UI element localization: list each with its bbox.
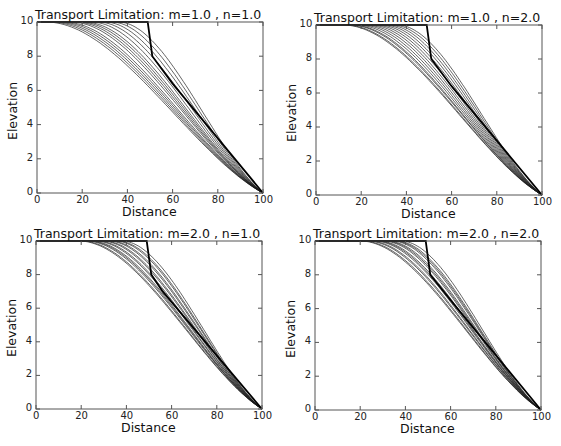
y-tick-label: 8 bbox=[305, 268, 311, 279]
y-axis-label: Elevation bbox=[284, 84, 299, 142]
x-tick-label: 100 bbox=[253, 410, 272, 421]
evolved-profile-line bbox=[36, 241, 262, 409]
y-tick-label: 8 bbox=[26, 268, 32, 279]
initial-profile-line bbox=[316, 25, 542, 195]
y-tick-label: 10 bbox=[20, 234, 33, 245]
plot-area bbox=[37, 22, 263, 193]
y-tick-label: 0 bbox=[305, 403, 311, 414]
y-tick-label: 10 bbox=[21, 15, 34, 26]
evolved-profile-line bbox=[36, 241, 262, 409]
evolved-profile-line bbox=[316, 25, 542, 195]
evolved-profile-line bbox=[316, 25, 542, 195]
x-tick-label: 100 bbox=[532, 411, 551, 422]
x-tick-label: 0 bbox=[34, 194, 40, 205]
evolved-profile-line bbox=[316, 25, 542, 195]
evolved-profile-line bbox=[316, 25, 542, 195]
y-tick-label: 8 bbox=[27, 49, 33, 60]
y-tick-label: 4 bbox=[306, 120, 312, 131]
x-tick-label: 0 bbox=[313, 196, 319, 207]
evolved-profile-line bbox=[36, 241, 262, 409]
evolved-profile-line bbox=[36, 241, 262, 409]
evolved-profile-line bbox=[316, 25, 542, 195]
y-tick-label: 0 bbox=[27, 186, 33, 197]
evolved-profile-line bbox=[36, 241, 262, 409]
chart-title: Transport Limitation: m=2.0 , n=1.0 bbox=[34, 226, 260, 241]
evolved-profile-line bbox=[316, 25, 542, 195]
chart-title: Transport Limitation: m=1.0 , n=1.0 bbox=[35, 7, 261, 22]
x-tick-label: 20 bbox=[76, 194, 89, 205]
y-tick-label: 6 bbox=[27, 83, 33, 94]
evolved-profile-line bbox=[315, 241, 541, 410]
evolved-profile-line bbox=[36, 241, 262, 409]
evolved-profile-line bbox=[316, 25, 542, 195]
x-axis-label: Distance bbox=[400, 421, 455, 436]
panel-m1-n2: 0204060801000246810Transport Limitation:… bbox=[316, 25, 542, 195]
y-tick-label: 8 bbox=[306, 52, 312, 63]
x-tick-label: 80 bbox=[491, 196, 504, 207]
y-axis-label: Elevation bbox=[283, 299, 298, 357]
evolved-profile-line bbox=[316, 25, 542, 195]
y-tick-label: 10 bbox=[299, 234, 312, 245]
x-tick-label: 0 bbox=[312, 411, 318, 422]
evolved-profile-line bbox=[316, 25, 542, 195]
x-tick-label: 80 bbox=[212, 194, 225, 205]
y-tick-label: 2 bbox=[27, 152, 33, 163]
axes-frame bbox=[316, 25, 542, 195]
x-tick-label: 100 bbox=[254, 194, 273, 205]
evolved-profile-line bbox=[316, 25, 542, 195]
panel-m2-n2: 0204060801000246810Transport Limitation:… bbox=[315, 241, 541, 410]
x-tick-label: 20 bbox=[354, 411, 367, 422]
evolved-profile-line bbox=[316, 25, 542, 195]
evolved-profile-line bbox=[36, 241, 262, 409]
y-axis-label: Elevation bbox=[4, 299, 19, 357]
evolved-profile-line bbox=[36, 241, 262, 409]
x-tick-label: 100 bbox=[533, 196, 552, 207]
x-tick-label: 80 bbox=[211, 410, 224, 421]
evolved-profile-line bbox=[316, 25, 542, 195]
initial-profile-line bbox=[36, 241, 262, 409]
y-tick-label: 0 bbox=[306, 188, 312, 199]
panel-m1-n1: 0204060801000246810Transport Limitation:… bbox=[37, 22, 263, 193]
evolved-profile-line bbox=[36, 241, 262, 409]
y-tick-label: 10 bbox=[300, 18, 313, 29]
evolved-profile-line bbox=[36, 241, 262, 409]
evolved-profile-line bbox=[36, 241, 262, 409]
y-tick-label: 6 bbox=[306, 86, 312, 97]
x-axis-label: Distance bbox=[121, 420, 176, 435]
axes-frame bbox=[36, 241, 262, 409]
x-tick-label: 20 bbox=[75, 410, 88, 421]
evolved-profile-line bbox=[316, 25, 542, 195]
y-tick-label: 6 bbox=[26, 301, 32, 312]
y-tick-label: 2 bbox=[305, 369, 311, 380]
plot-area bbox=[36, 241, 262, 409]
evolved-profile-line bbox=[36, 241, 262, 409]
y-tick-label: 4 bbox=[27, 118, 33, 129]
evolved-profile-line bbox=[36, 241, 262, 409]
evolved-profile-line bbox=[36, 241, 262, 409]
evolved-profile-line bbox=[37, 22, 263, 193]
plot-area bbox=[316, 25, 542, 195]
plot-area bbox=[315, 241, 541, 410]
x-axis-label: Distance bbox=[122, 204, 177, 219]
y-tick-label: 6 bbox=[305, 302, 311, 313]
y-tick-label: 4 bbox=[26, 335, 32, 346]
x-tick-label: 0 bbox=[33, 410, 39, 421]
y-tick-label: 2 bbox=[306, 154, 312, 165]
x-axis-label: Distance bbox=[401, 206, 456, 221]
y-axis-label: Elevation bbox=[5, 81, 20, 139]
x-tick-label: 80 bbox=[490, 411, 503, 422]
evolved-profile-line bbox=[316, 25, 542, 195]
y-tick-label: 0 bbox=[26, 402, 32, 413]
chart-title: Transport Limitation: m=2.0 , n=2.0 bbox=[313, 226, 539, 241]
panel-m2-n1: 0204060801000246810Transport Limitation:… bbox=[36, 241, 262, 409]
y-tick-label: 4 bbox=[305, 335, 311, 346]
chart-title: Transport Limitation: m=1.0 , n=2.0 bbox=[314, 10, 540, 25]
x-tick-label: 20 bbox=[355, 196, 368, 207]
y-tick-label: 2 bbox=[26, 368, 32, 379]
